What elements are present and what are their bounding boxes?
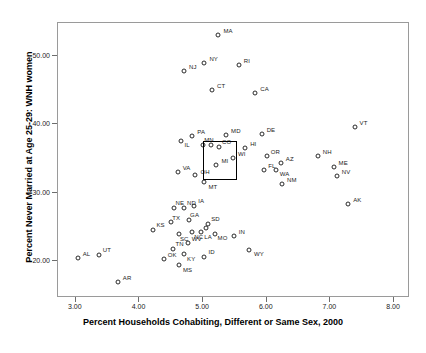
data-point-label-tn: TN bbox=[176, 241, 184, 247]
data-point-nv bbox=[334, 173, 339, 178]
data-point-il bbox=[179, 138, 184, 143]
data-point-oh bbox=[193, 172, 198, 177]
data-point-ut bbox=[96, 252, 101, 257]
data-point-label-mo: MO bbox=[218, 235, 228, 241]
data-point-mt bbox=[202, 180, 207, 185]
data-point-label-ct: CT bbox=[217, 83, 225, 89]
data-point-ca bbox=[253, 91, 258, 96]
data-point-label-me: ME bbox=[339, 160, 348, 166]
data-point-ga bbox=[187, 218, 192, 223]
data-point-label-ma: MA bbox=[223, 28, 232, 34]
x-tick-mark bbox=[138, 297, 139, 302]
data-point-nm bbox=[280, 182, 285, 187]
data-point-label-de: DE bbox=[267, 127, 276, 133]
data-point-ok bbox=[161, 257, 166, 262]
data-point-label-ok: OK bbox=[168, 252, 177, 258]
data-point-nh bbox=[315, 154, 320, 159]
data-point-label-tx: TX bbox=[172, 215, 180, 221]
x-tick-mark bbox=[266, 297, 267, 302]
data-point-ct bbox=[210, 88, 215, 93]
data-point-label-wi: WI bbox=[238, 151, 246, 157]
data-point-tn bbox=[170, 246, 175, 251]
data-point-mo bbox=[212, 231, 217, 236]
data-point-in bbox=[231, 234, 236, 239]
data-point-fl bbox=[262, 168, 267, 173]
data-point-me bbox=[331, 165, 336, 170]
data-point-la bbox=[199, 230, 204, 235]
data-point-label-sd: SD bbox=[211, 216, 220, 222]
y-tick-label: 30.00 bbox=[18, 188, 50, 195]
data-point-label-ia: IA bbox=[198, 198, 204, 204]
data-point-hi bbox=[243, 145, 248, 150]
data-point-nj bbox=[182, 68, 187, 73]
x-tick-label: 3.00 bbox=[68, 303, 82, 310]
data-point-ks bbox=[151, 227, 156, 232]
data-point-va bbox=[175, 170, 180, 175]
x-tick-mark bbox=[329, 297, 330, 302]
data-point-pa bbox=[190, 133, 195, 138]
data-point-label-wa: WA bbox=[280, 171, 290, 177]
data-point-label-ar: AR bbox=[123, 275, 132, 281]
data-point-ri bbox=[236, 63, 241, 68]
data-point-label-nj: NJ bbox=[189, 64, 197, 70]
data-point-label-ny: NY bbox=[209, 56, 218, 62]
data-point-label-ks: KS bbox=[156, 222, 164, 228]
data-point-label-nv: NV bbox=[342, 169, 351, 175]
data-point-label-al: AL bbox=[83, 251, 91, 257]
data-point-label-va: VA bbox=[183, 165, 191, 171]
x-tick-label: 8.00 bbox=[386, 303, 400, 310]
data-point bbox=[203, 226, 208, 231]
data-point-ia bbox=[192, 204, 197, 209]
x-tick-label: 7.00 bbox=[323, 303, 337, 310]
data-point-label-hi: HI bbox=[250, 141, 256, 147]
data-point-ak bbox=[346, 201, 351, 206]
data-point-label-ga: GA bbox=[190, 212, 199, 218]
data-point-nd bbox=[182, 206, 187, 211]
data-point-label-ri: RI bbox=[244, 58, 250, 64]
data-point-label-ut: UT bbox=[103, 247, 111, 253]
scatter-plot-figure: Percent Never Married at Age 25-29: WNH … bbox=[0, 0, 426, 353]
data-point-label-or: OR bbox=[271, 149, 280, 155]
data-point-ne bbox=[172, 206, 177, 211]
data-point-label-wv: WV bbox=[192, 236, 202, 242]
data-point-label-pa: PA bbox=[197, 129, 205, 135]
data-point-id bbox=[202, 254, 207, 259]
data-point-label-md: MD bbox=[231, 128, 241, 134]
data-point-label-ky: KY bbox=[187, 256, 195, 262]
y-tick-label: 20.00 bbox=[18, 257, 50, 264]
data-point-label-nm: NM bbox=[287, 177, 297, 183]
data-point-wa bbox=[273, 168, 278, 173]
data-point-label-wy: WY bbox=[254, 251, 264, 257]
data-point-label-nh: NH bbox=[323, 149, 332, 155]
data-point-or bbox=[264, 154, 269, 159]
y-tick-label: 50.00 bbox=[18, 51, 50, 58]
data-point-vt bbox=[352, 124, 357, 129]
data-point-label-mt: MT bbox=[208, 184, 217, 190]
x-tick-mark bbox=[75, 297, 76, 302]
data-point-label-vt: VT bbox=[360, 120, 368, 126]
data-point-az bbox=[278, 160, 283, 165]
data-point-label-il: IL bbox=[184, 142, 189, 148]
data-point-wv bbox=[185, 241, 190, 246]
data-point-label-az: AZ bbox=[286, 156, 294, 162]
data-point-ma bbox=[216, 33, 221, 38]
data-point-label-id: ID bbox=[208, 249, 214, 255]
x-tick-label: 6.00 bbox=[259, 303, 273, 310]
data-point-ky bbox=[182, 252, 187, 257]
x-tick-label: 4.00 bbox=[132, 303, 146, 310]
highlight-box bbox=[203, 141, 237, 180]
data-point-label-ca: CA bbox=[260, 86, 269, 92]
x-tick-mark bbox=[393, 297, 394, 302]
data-point-al bbox=[75, 255, 80, 260]
data-point-de bbox=[259, 131, 264, 136]
data-point-md bbox=[224, 133, 229, 138]
x-tick-label: 5.00 bbox=[195, 303, 209, 310]
data-point-label-la: LA bbox=[204, 234, 212, 240]
data-point-wy bbox=[246, 248, 251, 253]
data-point-ny bbox=[202, 60, 207, 65]
data-point-label-ms: MS bbox=[183, 267, 192, 273]
data-point-label-ak: AK bbox=[353, 197, 361, 203]
x-axis-title: Percent Households Cohabiting, Different… bbox=[0, 317, 426, 327]
data-point-ar bbox=[115, 280, 120, 285]
x-tick-mark bbox=[202, 297, 203, 302]
